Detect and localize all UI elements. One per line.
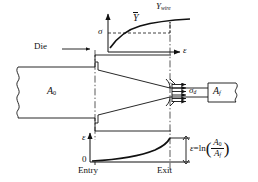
area-initial-label: A0: [47, 86, 56, 97]
stress-strain-curve: [110, 19, 190, 48]
die-label: Die: [34, 42, 47, 51]
strain-axis-label-upper: ε: [183, 46, 187, 55]
equation-numerator-sub: 0: [219, 141, 222, 147]
exit-tick-label: Exit: [157, 166, 172, 175]
equation-fraction: A0Af: [211, 138, 223, 159]
break-line-left: [17, 67, 19, 118]
y-wire-label: Ywire: [156, 2, 171, 12]
draw-stress-subscript: d: [193, 89, 196, 95]
area-initial-subscript: 0: [53, 89, 56, 96]
strain-chart-axes: [90, 133, 190, 162]
equation-ln: ln: [199, 143, 206, 153]
draw-stress-arrow-array: [172, 83, 186, 102]
area-final-subscript: f: [219, 89, 221, 96]
mean-flow-stress-label: Y: [133, 13, 139, 23]
equation-denominator-sub: f: [219, 152, 221, 158]
stress-strain-dashed-guides: [108, 22, 170, 33]
entry-tick-label: Entry: [78, 166, 98, 175]
wire-drawing-figure: Die A0 Af σd σ ε Y Ywire ε 0 Entry Exit …: [0, 0, 258, 182]
strain-origin-label: 0: [82, 155, 87, 164]
die-body-outline: [95, 55, 171, 131]
y-bar-symbol: Y: [133, 13, 139, 23]
strain-axis-label-lower: ε: [82, 133, 86, 142]
sigma-axis-label: σ: [98, 27, 102, 36]
strain-chart-dimension-bar: [170, 136, 190, 164]
strain-chart-curve: [92, 138, 170, 161]
draw-stress-label: σd: [189, 86, 196, 96]
break-line-right: [235, 83, 237, 102]
area-final-label: Af: [213, 86, 221, 97]
y-wire-subscript: wire: [161, 5, 171, 11]
strain-equation: ε=ln(A0Af): [190, 138, 229, 159]
paren-close: ): [224, 142, 230, 156]
